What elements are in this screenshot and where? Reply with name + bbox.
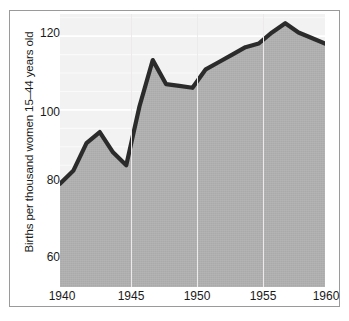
x-tick-label-1955: 1955: [250, 289, 277, 303]
plot-area: [60, 14, 325, 287]
y-tick-label-120: 120: [26, 26, 60, 40]
above-series-fill: [60, 14, 325, 184]
gridline-1950: [197, 14, 198, 287]
x-axis-tick-labels: 1940 1945 1950 1955 1960: [0, 289, 349, 309]
y-tick-label-60: 60: [26, 250, 60, 264]
y-tick-label-100: 100: [26, 105, 60, 119]
figure: Births per thousand women 15–44 years ol…: [0, 0, 349, 321]
y-tick-label-80: 80: [26, 173, 60, 187]
x-tick-label-1960: 1960: [313, 289, 340, 303]
series-plot: [60, 14, 325, 287]
x-tick-label-1945: 1945: [118, 289, 145, 303]
y-axis-tick-labels: 120 100 80 60: [18, 0, 60, 321]
x-tick-label-1950: 1950: [184, 289, 211, 303]
gridline-1955: [263, 14, 264, 287]
x-tick-label-1940: 1940: [49, 289, 76, 303]
gridline-1945: [131, 14, 132, 287]
